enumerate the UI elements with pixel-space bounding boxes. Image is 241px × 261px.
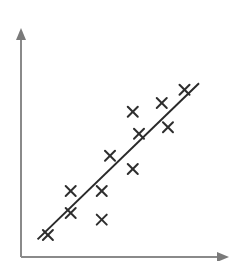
x-marker-icon — [97, 215, 107, 225]
regression-line — [38, 83, 199, 239]
x-marker-icon — [66, 186, 76, 196]
y-axis — [16, 28, 26, 257]
x-marker-icon — [97, 186, 107, 196]
x-marker-icon — [157, 98, 167, 108]
y-axis-arrow-icon — [16, 28, 26, 40]
x-marker-icon — [180, 85, 190, 95]
x-marker-icon — [128, 107, 138, 117]
x-marker-icon — [163, 122, 173, 132]
x-axis — [21, 252, 229, 261]
x-marker-icon — [105, 151, 115, 161]
x-marker-icon — [43, 230, 53, 240]
x-axis-arrow-icon — [217, 252, 229, 261]
scatter-plot — [0, 0, 241, 261]
x-marker-icon — [134, 129, 144, 139]
x-marker-icon — [66, 208, 76, 218]
x-marker-icon — [128, 164, 138, 174]
